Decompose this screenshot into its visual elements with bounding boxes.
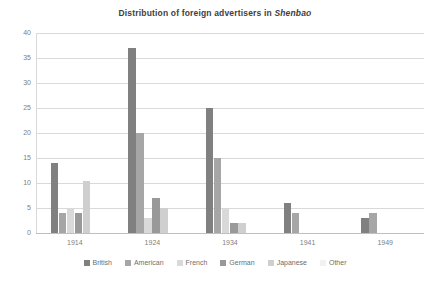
- bar-japanese-1914[interactable]: [83, 181, 91, 234]
- legend-label: American: [134, 258, 164, 267]
- legend-swatch-icon-american: [125, 260, 131, 266]
- legend-item-german[interactable]: German: [220, 258, 254, 267]
- y-axis-tick-label: 25: [5, 104, 31, 112]
- x-axis-tick-label-1934: 1934: [191, 238, 269, 247]
- bar-british-1914[interactable]: [51, 163, 59, 233]
- bar-american-1949[interactable]: [369, 213, 377, 233]
- legend-swatch-icon-japanese: [268, 260, 274, 266]
- x-axis-tick-label-1941: 1941: [269, 238, 347, 247]
- bar-french-1924[interactable]: [144, 218, 152, 233]
- bar-british-1949[interactable]: [361, 218, 369, 233]
- legend-swatch-icon-german: [220, 260, 226, 266]
- y-axis-tick-label: 30: [5, 79, 31, 87]
- legend-label: German: [229, 258, 254, 267]
- chart-title-italic: Shenbao: [274, 8, 311, 18]
- chart-legend: BritishAmericanFrenchGermanJapaneseOther: [0, 258, 430, 267]
- legend-label: French: [186, 258, 208, 267]
- y-axis-tick-label: 15: [5, 154, 31, 162]
- bar-german-1924[interactable]: [152, 198, 160, 233]
- y-axis-tick-label: 35: [5, 54, 31, 62]
- bar-german-1914[interactable]: [75, 213, 83, 233]
- bar-group-1934: [206, 33, 254, 233]
- legend-item-french[interactable]: French: [177, 258, 208, 267]
- bar-british-1924[interactable]: [128, 48, 136, 233]
- bar-french-1934[interactable]: [222, 208, 230, 233]
- y-axis-tick-label: 0: [5, 229, 31, 237]
- x-axis-tick-label-1914: 1914: [36, 238, 114, 247]
- chart-title-plain: Distribution of foreign advertisers in: [119, 8, 275, 18]
- bar-german-1934[interactable]: [230, 223, 238, 233]
- bar-french-1914[interactable]: [67, 208, 75, 233]
- legend-item-british[interactable]: British: [84, 258, 112, 267]
- bar-group-1924: [128, 33, 176, 233]
- legend-label: Japanese: [277, 258, 307, 267]
- chart-title: Distribution of foreign advertisers in S…: [0, 8, 430, 18]
- bar-american-1924[interactable]: [136, 133, 144, 233]
- bar-american-1914[interactable]: [59, 213, 67, 233]
- gridline: [36, 233, 424, 234]
- bar-group-1941: [284, 33, 332, 233]
- bar-japanese-1924[interactable]: [160, 208, 168, 233]
- legend-item-american[interactable]: American: [125, 258, 164, 267]
- legend-item-japanese[interactable]: Japanese: [268, 258, 307, 267]
- bar-american-1934[interactable]: [214, 158, 222, 233]
- legend-swatch-icon-other: [320, 260, 326, 266]
- legend-label: Other: [329, 258, 347, 267]
- chart-container: Distribution of foreign advertisers in S…: [0, 0, 430, 283]
- legend-item-other[interactable]: Other: [320, 258, 347, 267]
- x-axis-tick-label-1949: 1949: [346, 238, 424, 247]
- bar-american-1941[interactable]: [292, 213, 300, 233]
- legend-label: British: [93, 258, 112, 267]
- legend-swatch-icon-french: [177, 260, 183, 266]
- legend-swatch-icon-british: [84, 260, 90, 266]
- bar-british-1934[interactable]: [206, 108, 214, 233]
- bar-british-1941[interactable]: [284, 203, 292, 233]
- y-axis-tick-label: 5: [5, 204, 31, 212]
- bar-japanese-1934[interactable]: [238, 223, 246, 233]
- plot-area: [36, 33, 424, 233]
- y-axis-tick-label: 40: [5, 29, 31, 37]
- y-axis-tick-label: 20: [5, 129, 31, 137]
- x-axis-tick-label-1924: 1924: [114, 238, 192, 247]
- bar-group-1914: [51, 33, 99, 233]
- bar-group-1949: [361, 33, 409, 233]
- y-axis-tick-label: 10: [5, 179, 31, 187]
